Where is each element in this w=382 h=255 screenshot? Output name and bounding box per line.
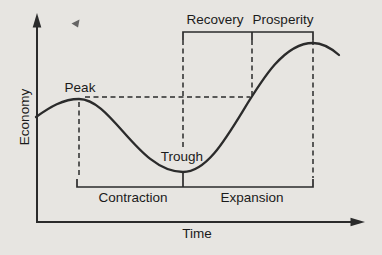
x-axis-label: Time xyxy=(182,226,212,241)
expansion-label: Expansion xyxy=(220,190,283,205)
recovery-label: Recovery xyxy=(186,12,243,27)
business-cycle-figure: Peak Trough Recovery Prosperity Contract… xyxy=(0,0,382,255)
prosperity-label: Prosperity xyxy=(253,12,314,27)
contraction-label: Contraction xyxy=(98,190,167,205)
figure-background xyxy=(0,0,382,255)
y-axis-label: Economy xyxy=(17,89,32,146)
business-cycle-diagram: Peak Trough Recovery Prosperity Contract… xyxy=(0,0,382,255)
trough-label: Trough xyxy=(161,149,203,164)
peak-label: Peak xyxy=(65,80,96,95)
